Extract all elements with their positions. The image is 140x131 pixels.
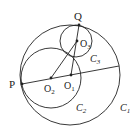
point-o1: [70, 74, 73, 77]
label-o2: O2: [44, 83, 55, 96]
label-o1: O1: [64, 80, 75, 93]
point-q: [78, 24, 81, 27]
label-c3: C3: [90, 53, 101, 66]
diagram-canvas: Q P O3 O2 O1 C3 C2 C1: [0, 0, 140, 131]
geometry-diagram: Q P O3 O2 O1 C3 C2 C1: [0, 0, 140, 131]
label-p: P: [9, 78, 15, 90]
point-o3: [76, 40, 79, 43]
label-q: Q: [74, 10, 82, 22]
label-c1: C1: [120, 102, 130, 115]
segment-o1-q: [71, 25, 79, 75]
point-p: [21, 83, 24, 86]
label-c2: C2: [76, 102, 87, 115]
label-o3: O3: [80, 38, 91, 51]
point-o2: [50, 77, 53, 80]
